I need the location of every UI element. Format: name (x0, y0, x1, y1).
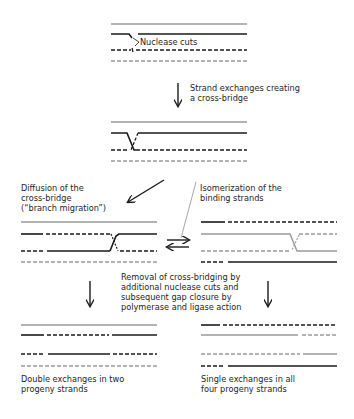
label-strand-exchange: Strand exchanges creating a cross-bridge (190, 83, 303, 103)
label-removal: Removal of cross-bridging by additional … (121, 272, 243, 312)
stage-branch-migration (21, 222, 157, 262)
equilibrium-arrows-icon (167, 240, 189, 247)
stage-double-exchange (21, 325, 157, 366)
stage-cross-bridge (111, 122, 247, 161)
label-single-exchange: Single exchanges in all four progeny str… (201, 374, 298, 394)
stage-single-exchange (201, 325, 337, 366)
label-nuclease-cuts: Nuclease cuts (140, 37, 197, 47)
label-isomerization: Isomerization of the binding strands (200, 183, 284, 203)
recombination-diagram: Nuclease cuts Strand exchanges creating … (0, 0, 354, 419)
stage-isomerized (201, 222, 337, 262)
isomerization-pointer (181, 182, 196, 238)
diagonal-arrow-icon (128, 180, 164, 202)
label-diffusion: Diffusion of the cross-bridge (“branch m… (21, 183, 106, 213)
label-double-exchange: Double exchanges in two progeny strands (21, 374, 127, 394)
